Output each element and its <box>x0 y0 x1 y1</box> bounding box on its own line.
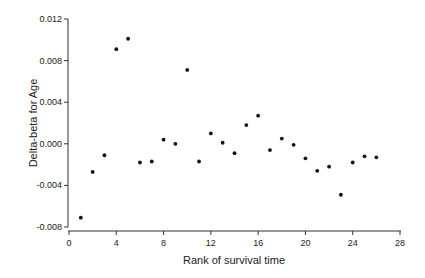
data-point <box>244 123 248 127</box>
data-point <box>79 216 83 220</box>
data-point <box>126 37 130 41</box>
y-tick-label: -0.008 <box>36 222 62 232</box>
y-axis: -0.008-0.0040.0000.0040.0080.012 <box>36 14 68 232</box>
data-point <box>103 153 107 157</box>
data-point <box>304 156 308 160</box>
data-point <box>91 170 95 174</box>
x-tick-label: 24 <box>348 238 358 248</box>
data-point <box>150 160 154 164</box>
y-tick-label: 0.012 <box>39 14 62 24</box>
data-point <box>363 154 367 158</box>
data-point <box>162 138 166 142</box>
data-point <box>114 47 118 51</box>
data-point <box>138 161 142 165</box>
data-point <box>374 155 378 159</box>
data-point <box>173 142 177 146</box>
data-point <box>233 151 237 155</box>
data-point <box>315 169 319 173</box>
x-tick-label: 8 <box>161 238 166 248</box>
data-point <box>280 137 284 141</box>
y-axis-title: Delta-beta for Age <box>27 79 39 168</box>
data-point <box>351 161 355 165</box>
x-axis: 0481216202428 <box>66 231 405 248</box>
data-point <box>221 141 225 145</box>
data-point <box>197 160 201 164</box>
x-tick-label: 16 <box>253 238 263 248</box>
data-points <box>79 37 378 220</box>
data-point <box>339 193 343 197</box>
data-point <box>327 165 331 169</box>
y-tick-label: 0.004 <box>39 97 62 107</box>
data-point <box>268 148 272 152</box>
y-tick-label: 0.008 <box>39 56 62 66</box>
x-tick-label: 28 <box>395 238 405 248</box>
data-point <box>256 114 260 118</box>
x-tick-label: 4 <box>114 238 119 248</box>
y-tick-label: -0.004 <box>36 180 62 190</box>
x-tick-label: 0 <box>66 238 71 248</box>
x-tick-label: 12 <box>206 238 216 248</box>
x-axis-title: Rank of survival time <box>183 254 285 266</box>
data-point <box>209 132 213 136</box>
data-point <box>185 68 189 72</box>
data-point <box>292 143 296 147</box>
scatter-chart: -0.008-0.0040.0000.0040.0080.012 0481216… <box>0 0 425 278</box>
y-tick-label: 0.000 <box>39 139 62 149</box>
x-tick-label: 20 <box>300 238 310 248</box>
